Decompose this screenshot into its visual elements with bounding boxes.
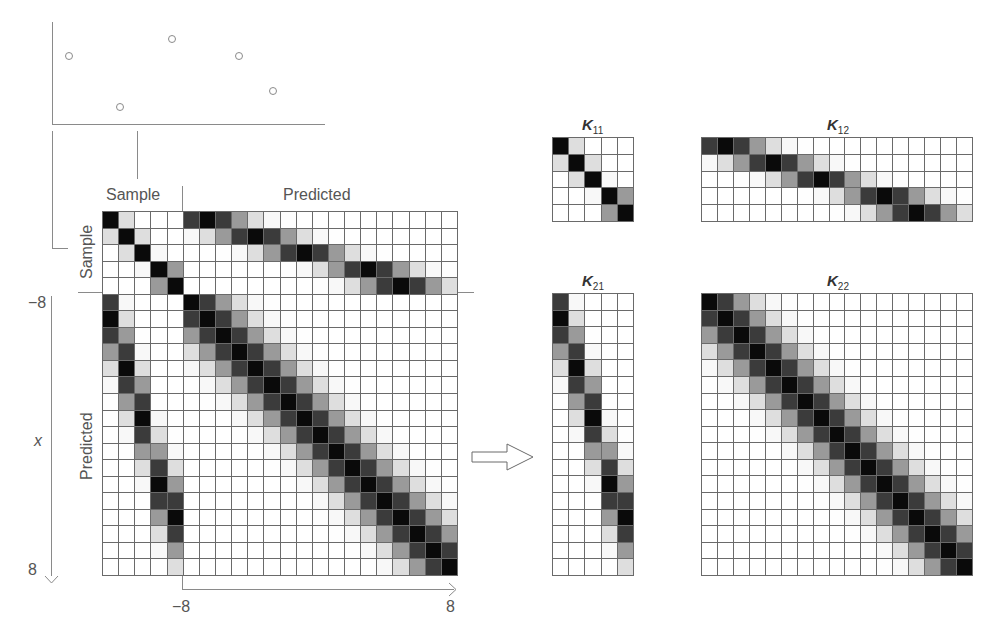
matrix-cell [119,344,134,360]
matrix-cell [184,559,199,575]
matrix-cell [766,172,781,188]
matrix-cell [814,543,829,559]
matrix-cell [345,295,360,311]
matrix-cell [957,377,972,393]
matrix-cell [941,205,956,221]
matrix-cell [553,443,568,459]
matrix-cell [845,327,860,343]
matrix-cell [585,460,600,476]
matrix-cell [569,294,584,310]
matrix-cell [585,427,600,443]
matrix-cell [168,212,183,228]
matrix-cell [569,476,584,492]
matrix-cell [893,394,908,410]
matrix-cell [585,559,600,575]
matrix-cell [861,443,876,459]
matrix-cell [569,188,584,204]
matrix-cell [782,410,797,426]
matrix-cell [216,493,231,509]
matrix-cell [345,377,360,393]
matrix-cell [718,443,733,459]
matrix-cell [585,526,600,542]
matrix-cell [297,344,312,360]
matrix-cell [281,526,296,542]
matrix-cell [941,410,956,426]
matrix-cell [345,477,360,493]
matrix-cell [909,294,924,310]
matrix-cell [264,444,279,460]
matrix-cell [168,245,183,261]
matrix-cell [313,361,328,377]
matrix-cell [861,526,876,542]
matrix-cell [345,344,360,360]
matrix-cell [329,559,344,575]
matrix-cell [281,411,296,427]
matrix-cell [569,138,584,154]
matrix-cell [103,510,118,526]
matrix-cell [618,543,633,559]
matrix-cell [168,328,183,344]
matrix-cell [329,328,344,344]
matrix-cell [941,443,956,459]
matrix-cell [329,262,344,278]
matrix-cell [957,559,972,575]
matrix-cell [941,476,956,492]
matrix-cell [734,360,749,376]
matrix-cell [585,188,600,204]
matrix-cell [281,377,296,393]
matrix-cell [119,444,134,460]
matrix-cell [602,410,617,426]
matrix-cell [750,510,765,526]
matrix-cell [168,493,183,509]
matrix-cell [248,245,263,261]
matrix-cell [216,245,231,261]
matrix-cell [151,543,166,559]
matrix-cell [766,327,781,343]
matrix-cell [893,360,908,376]
matrix-cell [702,443,717,459]
matrix-cell [798,311,813,327]
matrix-cell [830,188,845,204]
matrix-cell [361,526,376,542]
matrix-cell [329,245,344,261]
matrix-cell [909,205,924,221]
matrix-cell [861,344,876,360]
matrix-cell [361,394,376,410]
matrix-cell [264,510,279,526]
matrix-cell [119,295,134,311]
matrix-cell [426,295,441,311]
matrix-cell [893,172,908,188]
matrix-cell [798,172,813,188]
matrix-cell [135,361,150,377]
matrix-cell [861,543,876,559]
matrix-cell [909,377,924,393]
matrix-cell [553,327,568,343]
matrix-cell [941,377,956,393]
matrix-cell [281,245,296,261]
matrix-cell [361,328,376,344]
matrix-cell [297,245,312,261]
matrix-cell [925,155,940,171]
matrix-cell [184,543,199,559]
matrix-cell [861,377,876,393]
matrix-cell [184,295,199,311]
matrix-cell [264,311,279,327]
matrix-cell [184,493,199,509]
matrix-cell [442,510,457,526]
matrix-cell [845,138,860,154]
matrix-cell [151,427,166,443]
matrix-cell [232,444,247,460]
matrix-cell [281,460,296,476]
y-axis-line [51,296,52,576]
matrix-cell [830,172,845,188]
matrix-cell [168,344,183,360]
matrix-cell [426,394,441,410]
matrix-cell [442,460,457,476]
matrix-cell [329,411,344,427]
matrix-cell [442,212,457,228]
matrix-cell [232,212,247,228]
matrix-cell [553,460,568,476]
matrix-cell [313,477,328,493]
matrix-cell [232,311,247,327]
matrix-cell [893,427,908,443]
